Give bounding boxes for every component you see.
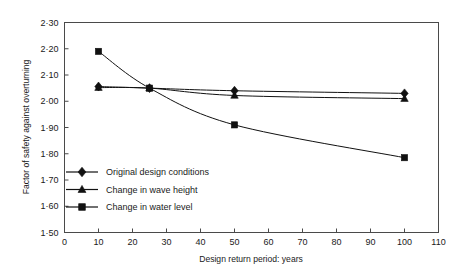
legend-item: Original design conditions	[66, 167, 210, 177]
x-tick-label: 50	[229, 237, 239, 247]
x-tick-label: 60	[263, 237, 273, 247]
y-tick-label: 2·00	[40, 96, 58, 106]
plot-frame	[65, 23, 439, 233]
marker-square	[231, 122, 237, 128]
y-tick-label: 1·60	[40, 201, 58, 211]
y-tick-label: 2·30	[40, 18, 58, 28]
marker-square	[146, 85, 152, 91]
series-3	[95, 48, 407, 161]
data-series-layer	[95, 48, 408, 161]
legend-label: Change in wave height	[106, 185, 198, 195]
x-tick-label: 40	[195, 237, 205, 247]
y-tick-label: 1·70	[40, 175, 58, 185]
marker-diamond	[78, 167, 86, 177]
legend-label: Change in water level	[106, 202, 193, 212]
legend-item: Change in wave height	[66, 185, 198, 195]
chart-figure: 1·501·601·701·801·902·002·102·202·30 010…	[0, 0, 467, 278]
marker-square	[401, 155, 407, 161]
y-axis-tickmarks	[65, 23, 69, 233]
x-tick-label: 30	[161, 237, 171, 247]
x-tick-label: 90	[365, 237, 375, 247]
y-tick-label: 1·50	[40, 228, 58, 238]
x-tick-label: 80	[331, 237, 341, 247]
y-tick-label: 1·90	[40, 123, 58, 133]
x-tick-label: 110	[431, 237, 445, 247]
y-tick-label: 2·10	[40, 70, 58, 80]
x-tick-label: 70	[297, 237, 307, 247]
x-tick-label: 100	[397, 237, 412, 247]
x-tick-label: 0	[62, 237, 67, 247]
y-axis-tick-labels: 1·501·601·701·801·902·002·102·202·30	[40, 18, 58, 238]
y-axis-title: Factor of safety against overturning	[21, 59, 31, 194]
series-1	[95, 82, 408, 98]
x-axis-tickmarks	[65, 229, 439, 233]
marker-square	[79, 204, 86, 211]
y-tick-label: 2·20	[40, 44, 58, 54]
marker-square	[95, 48, 101, 54]
legend-item: Change in water level	[66, 202, 193, 212]
x-tick-label: 10	[93, 237, 103, 247]
legend-label: Original design conditions	[106, 167, 210, 177]
x-tick-label: 20	[127, 237, 137, 247]
series-line	[99, 51, 405, 157]
chart-legend: Original design conditionsChange in wave…	[66, 167, 210, 212]
y-tick-label: 1·80	[40, 149, 58, 159]
chart-canvas: 1·501·601·701·801·902·002·102·202·30 010…	[0, 0, 467, 278]
x-axis-title: Design return period: years	[199, 254, 303, 264]
x-axis-tick-labels: 0102030405060708090100110	[62, 237, 446, 247]
